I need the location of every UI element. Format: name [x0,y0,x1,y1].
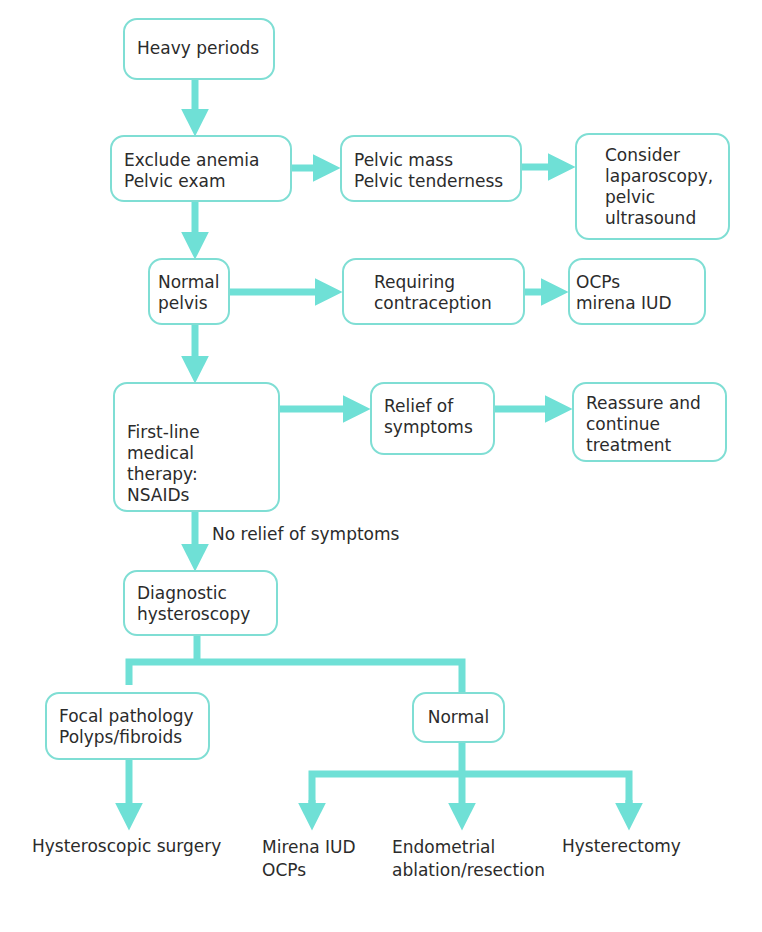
node-ocps-mirena: OCPs mirena IUD [568,258,706,325]
outcome-hysteroscopic-surgery: Hysteroscopic surgery [32,836,221,857]
outcome-hysterectomy: Hysterectomy [562,836,681,857]
node-diagnostic-hysteroscopy: Diagnostic hysteroscopy [123,570,278,636]
node-relief-of-symptoms: Relief of symptoms [370,382,495,455]
node-normal: Normal [412,692,505,743]
node-focal-pathology: Focal pathology Polyps/fibroids [45,692,210,760]
node-consider-laparoscopy: Consider laparoscopy, pelvic ultrasound [575,133,730,240]
node-reassure: Reassure and continue treatment [572,382,727,462]
outcome-mirena-ocps: Mirena IUD OCPs [262,836,356,882]
node-heavy-periods: Heavy periods [123,18,275,80]
edge-label-no-relief: No relief of symptoms [212,524,399,545]
node-first-line-therapy: First-line medical therapy: NSAIDs [113,382,280,512]
outcome-endometrial-ablation: Endometrial ablation/resection [392,836,545,882]
heavy-periods-flowchart: Heavy periods Exclude anemia Pelvic exam… [0,0,762,932]
node-pelvic-mass: Pelvic mass Pelvic tenderness [340,135,522,202]
node-normal-pelvis: Normal pelvis [148,258,230,325]
node-exclude-anemia: Exclude anemia Pelvic exam [110,135,292,202]
node-requiring-contraception: Requiring contraception [342,258,525,325]
